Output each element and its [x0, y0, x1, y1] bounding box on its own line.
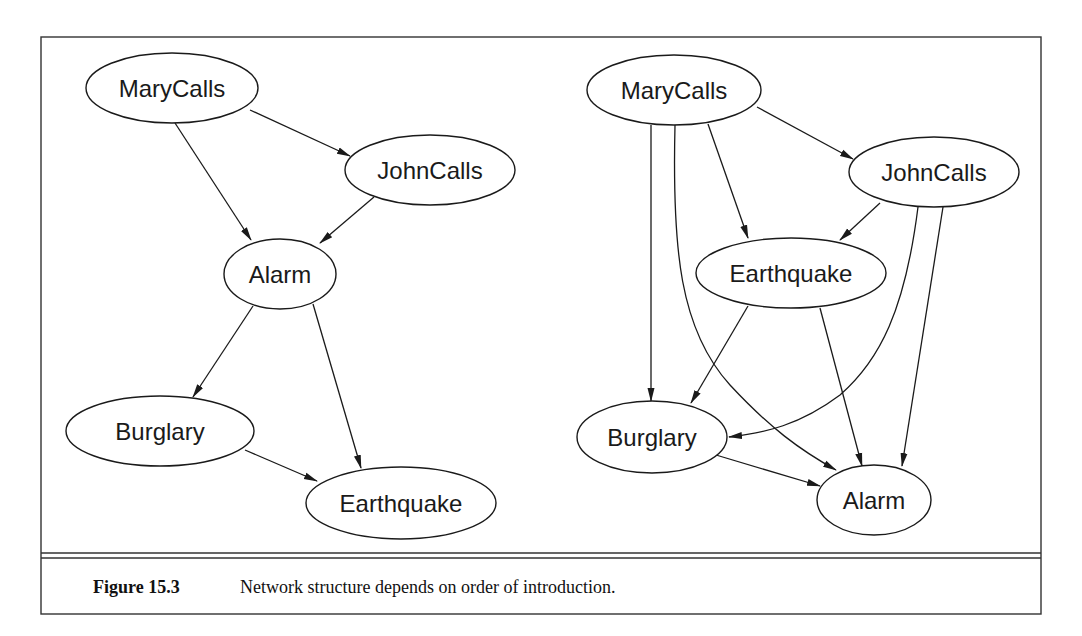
node-label: Burglary — [115, 418, 204, 445]
node-johncalls: JohnCalls — [345, 135, 515, 205]
edge-johncalls-alarm — [320, 197, 374, 243]
node-label: JohnCalls — [377, 157, 482, 184]
node-label: MaryCalls — [621, 77, 728, 104]
node-alarm: Alarm — [817, 465, 931, 535]
node-johncalls: JohnCalls — [849, 137, 1019, 207]
edge-marycalls-alarm — [175, 123, 251, 240]
figure-number: Figure 15.3 — [93, 577, 180, 597]
edge-alarm-burglary — [193, 306, 253, 397]
edge-earthquake-burglary — [691, 306, 748, 403]
edge-marycalls-johncalls — [757, 107, 853, 159]
node-marycalls: MaryCalls — [587, 55, 761, 125]
edge-marycalls-earthquake — [708, 124, 748, 238]
node-earthquake: Earthquake — [306, 467, 496, 539]
node-label: JohnCalls — [881, 159, 986, 186]
edge-burglary-alarm — [716, 455, 820, 486]
node-label: Burglary — [607, 424, 696, 451]
figure-caption: Figure 15.3 Network structure depends on… — [93, 577, 615, 597]
node-label: Earthquake — [730, 260, 853, 287]
figure-15-3: MaryCalls JohnCalls Alarm Burglary Earth… — [0, 0, 1082, 636]
node-label: Alarm — [843, 487, 906, 514]
node-burglary: Burglary — [66, 396, 254, 466]
edge-alarm-earthquake — [313, 304, 361, 468]
node-label: Alarm — [249, 261, 312, 288]
edge-burglary-earthquake — [245, 450, 317, 481]
edge-marycalls-johncalls — [250, 110, 350, 156]
right-network: MaryCalls JohnCalls Earthquake Burglary … — [577, 55, 1019, 535]
node-burglary: Burglary — [577, 401, 727, 473]
edge-johncalls-earthquake — [840, 203, 880, 240]
caption-text: Network structure depends on order of in… — [240, 577, 615, 597]
left-network: MaryCalls JohnCalls Alarm Burglary Earth… — [66, 53, 515, 539]
node-alarm: Alarm — [224, 239, 336, 309]
node-marycalls: MaryCalls — [86, 53, 258, 123]
edge-johncalls-alarm — [902, 207, 943, 466]
node-label: MaryCalls — [119, 75, 226, 102]
node-earthquake: Earthquake — [696, 238, 886, 308]
edge-earthquake-alarm — [820, 308, 862, 466]
node-label: Earthquake — [340, 490, 463, 517]
